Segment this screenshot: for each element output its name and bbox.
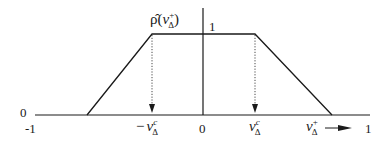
trapezoid-diagram: ρ̂(v+Δ) 1 0 -1 0 1 −vcΔ vcΔ v+Δ [0,0,392,144]
x-direction-arrow-icon [338,125,352,131]
x-tick-zero: 0 [199,121,206,136]
y-tick-one: 1 [209,19,216,34]
x-tick-neg-vc: −vcΔ [136,117,158,137]
arrowhead-vc-icon [252,104,258,113]
x-tick-min: -1 [25,121,36,136]
y-axis-label: ρ̂(v+Δ) [150,10,179,30]
x-axis-label: v+Δ [306,117,318,137]
arrowhead-neg-vc-icon [149,104,155,113]
y-tick-zero: 0 [20,105,27,120]
x-tick-max: 1 [365,121,372,136]
trapezoid-curve [87,34,332,115]
x-tick-vc: vcΔ [249,117,261,137]
